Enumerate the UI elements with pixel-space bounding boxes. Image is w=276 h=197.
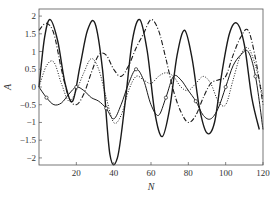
data-marker: [254, 75, 257, 78]
x-tick-label: 120: [256, 168, 270, 178]
x-axis-label: N: [147, 181, 156, 192]
data-marker: [194, 100, 197, 103]
y-tick-label: −0.5: [20, 100, 37, 110]
y-tick-label: 0: [32, 82, 37, 92]
y-tick-label: −1.5: [20, 135, 37, 145]
x-axis-ticks: 20406080100120: [72, 162, 270, 178]
plot-area: [39, 19, 263, 164]
y-tick-label: 1.5: [25, 29, 37, 39]
x-tick-label: 40: [109, 168, 119, 178]
data-marker: [134, 68, 137, 71]
x-tick-label: 100: [219, 168, 233, 178]
data-marker: [164, 96, 167, 99]
series-solid-thick: [39, 19, 259, 164]
y-tick-label: 1: [32, 47, 37, 57]
data-marker: [224, 85, 227, 88]
y-axis-label: A: [2, 83, 13, 91]
x-tick-label: 20: [72, 168, 82, 178]
y-tick-label: 0.5: [25, 64, 37, 74]
data-marker: [105, 107, 108, 110]
y-tick-label: −1: [26, 117, 36, 127]
y-tick-label: −2: [26, 153, 36, 163]
x-tick-label: 60: [147, 168, 157, 178]
y-tick-label: 2: [32, 11, 37, 21]
x-tick-label: 80: [184, 168, 194, 178]
data-marker: [45, 96, 48, 99]
data-marker: [75, 85, 78, 88]
line-chart: 20406080100120 −2−1.5−1−0.500.511.52 N A: [0, 0, 276, 197]
series-solid-marked: [39, 50, 263, 129]
